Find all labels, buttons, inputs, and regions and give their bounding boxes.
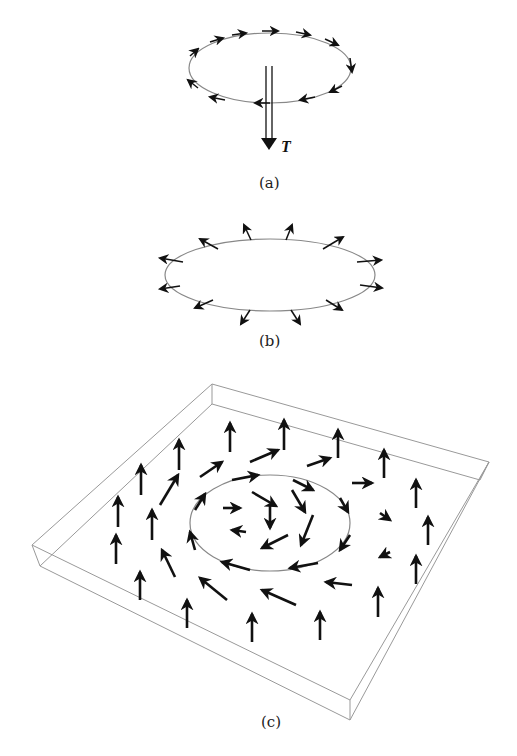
torque-label: T [281, 138, 291, 156]
radial-arrows [160, 225, 382, 324]
figure-canvas [0, 0, 517, 756]
caption-c: (c) [261, 713, 281, 731]
panel-a-diagram [188, 31, 352, 150]
ring-a [189, 33, 351, 103]
torque-arrow-T [261, 66, 277, 150]
caption-b: (b) [259, 332, 280, 350]
ring-b [165, 239, 375, 311]
caption-a: (a) [259, 174, 280, 192]
panel-c-box [32, 384, 489, 720]
panel-b-diagram [160, 225, 382, 324]
